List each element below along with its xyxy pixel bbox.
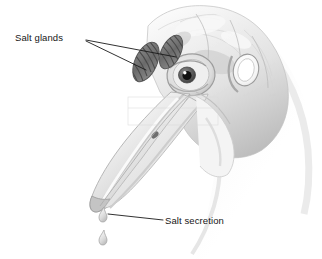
salt-secretion-label: Salt secretion	[165, 216, 224, 226]
salt-gland-figure: Salt glands Salt secretion	[0, 0, 322, 259]
leader-salt-secretion	[108, 214, 163, 220]
eye	[179, 67, 196, 83]
salt-droplets	[99, 207, 107, 245]
eye-highlight	[183, 71, 186, 74]
droplet-lower	[99, 230, 107, 245]
salt-glands-label: Salt glands	[15, 33, 63, 43]
